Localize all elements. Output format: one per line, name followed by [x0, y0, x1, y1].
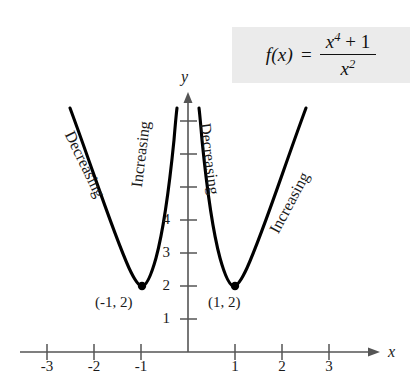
minimum-point-right	[231, 282, 239, 290]
numerator-base: x	[326, 32, 334, 53]
formula-box: f(x) = x4 + 1 x2	[232, 27, 410, 83]
formula-numerator: x4 + 1	[320, 31, 376, 53]
y-tick-label-4: 4	[152, 211, 170, 228]
formula-expression: f(x) = x4 + 1 x2	[266, 31, 376, 78]
point-label-left-minimum: (-1, 2)	[95, 294, 133, 311]
numerator-exponent: 4	[334, 30, 340, 44]
formula-fraction: x4 + 1 x2	[320, 31, 376, 78]
x-tick-label--2: -2	[79, 358, 109, 375]
function-graph-figure: f(x) = x4 + 1 x2 x y -3 -2 -1 1 2 3 1 2 …	[0, 0, 415, 390]
x-axis-arrowhead	[368, 348, 380, 357]
minimum-point-left	[138, 282, 146, 290]
formula-equals-sign: =	[301, 44, 312, 66]
y-tick-label-3: 3	[152, 244, 170, 261]
point-label-right-minimum: (1, 2)	[208, 294, 241, 311]
x-tick-label-1: 1	[224, 358, 246, 375]
denominator-base: x	[341, 59, 349, 80]
x-tick-label-3: 3	[318, 358, 340, 375]
numerator-tail: + 1	[345, 32, 370, 53]
denominator-exponent: 2	[349, 57, 355, 71]
formula-lhs: f(x)	[266, 44, 293, 66]
x-tick-label--3: -3	[32, 358, 62, 375]
x-tick-label--1: -1	[126, 358, 156, 375]
y-axis-label: y	[181, 68, 188, 86]
x-axis-label: x	[388, 343, 395, 361]
y-tick-label-2: 2	[152, 277, 170, 294]
y-tick-label-1: 1	[152, 310, 170, 327]
formula-denominator: x2	[335, 55, 362, 78]
y-axis-arrowhead	[184, 92, 193, 103]
x-tick-label-2: 2	[271, 358, 293, 375]
